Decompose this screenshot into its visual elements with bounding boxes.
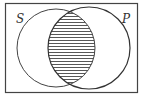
set-p-label: P bbox=[121, 12, 131, 26]
venn-diagram: S P bbox=[0, 0, 142, 104]
set-s-label: S bbox=[16, 12, 24, 26]
